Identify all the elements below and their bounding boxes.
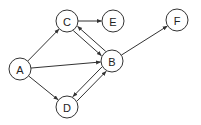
node-f[interactable]: F (166, 9, 188, 31)
node-c-label: C (63, 16, 71, 28)
node-e-label: E (109, 16, 116, 28)
node-b[interactable]: B (101, 50, 123, 72)
node-c[interactable]: C (56, 10, 78, 32)
edge-a-to-b (31, 62, 101, 68)
nodes-layer: A B C D E F (9, 9, 188, 118)
edge-a-to-d (29, 76, 59, 100)
node-b-label: B (108, 56, 115, 68)
edge-c-to-b (73, 31, 101, 56)
edge-b-to-c (78, 26, 106, 51)
node-a[interactable]: A (9, 58, 31, 80)
node-d[interactable]: D (56, 96, 78, 118)
edge-b-to-d (73, 67, 102, 97)
edge-b-to-f (121, 26, 167, 55)
edge-d-to-b (77, 71, 106, 101)
node-f-label: F (174, 15, 181, 27)
node-a-label: A (16, 64, 24, 76)
edges-layer (28, 21, 168, 101)
graph-diagram: A B C D E F (0, 0, 201, 125)
edge-a-to-c (28, 29, 59, 61)
node-d-label: D (63, 102, 71, 114)
node-e[interactable]: E (102, 10, 124, 32)
